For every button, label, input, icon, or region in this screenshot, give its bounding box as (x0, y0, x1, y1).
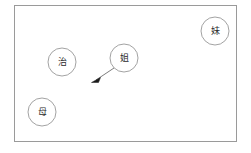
node-mu[interactable]: 母 (28, 98, 56, 126)
node-jie[interactable]: 姐 (110, 44, 138, 72)
node-jie-label: 姐 (120, 52, 129, 63)
node-zhi-label: 治 (58, 56, 67, 67)
node-mei[interactable]: 妹 (201, 17, 229, 45)
node-mu-label: 母 (38, 107, 47, 117)
diagram-svg: 治 姐 妹 母 (0, 0, 251, 153)
node-zhi[interactable]: 治 (48, 48, 76, 76)
node-mei-label: 妹 (211, 25, 220, 36)
diagram-canvas: 治 姐 妹 母 (0, 0, 251, 153)
